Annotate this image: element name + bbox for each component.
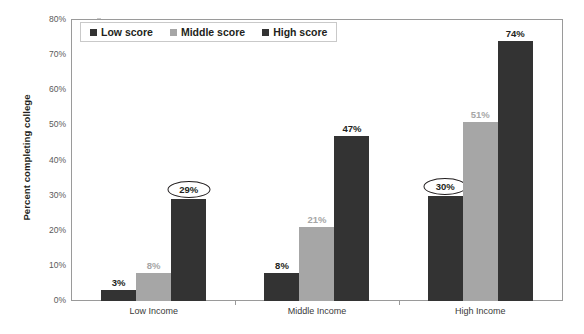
bar: 51% [463,122,498,301]
legend-item[interactable]: Middle score [170,26,245,38]
y-axis-tick-label: 30% [49,190,66,200]
bar: 21% [299,227,334,301]
x-axis-tickmark [399,301,400,305]
y-axis-tick-label: 20% [49,225,66,235]
bar-chart: Percent completing college 80%70%60%50%4… [0,0,584,334]
bar: 8% [264,273,299,301]
legend-item[interactable]: High score [262,26,327,38]
bar-group: 3%8%29% [72,20,235,301]
legend-item[interactable]: Low score [90,26,153,38]
x-axis-category-label: Low Income [129,306,178,316]
bars-layer: 3%8%29%8%21%47%30%51%74% [72,20,562,301]
y-axis-tick-label: 60% [49,84,66,94]
bar-group: 8%21%47% [235,20,398,301]
bar: 8% [136,273,171,301]
bar-value-label: 8% [147,260,161,271]
legend-swatch-icon [170,29,177,36]
bar-value-label: 8% [275,260,289,271]
chart-legend: Low scoreMiddle scoreHigh score [80,22,337,42]
y-axis-tick-label: 0% [54,295,66,305]
legend-label: Low score [101,26,153,38]
legend-swatch-icon [90,29,97,36]
bar-value-label: 47% [342,123,361,134]
legend-swatch-icon [262,29,269,36]
bar: 47% [334,136,369,301]
x-axis-category-label: High Income [455,306,506,316]
bar: 30% [428,196,463,301]
bar-group: 30%51%74% [399,20,562,301]
bar-value-label: 3% [112,277,126,288]
y-axis-tick-label: 70% [49,49,66,59]
legend-label: High score [273,26,327,38]
y-axis-ticks: 80%70%60%50%40%30%20%10%0% [30,19,66,301]
bar: 74% [498,41,533,301]
bar-value-label: 74% [506,28,525,39]
y-axis-tick-label: 50% [49,119,66,129]
bar-value-label-highlighted: 30% [424,178,467,195]
x-axis-labels: Low IncomeMiddle IncomeHigh Income [72,306,562,326]
x-axis-tickmark [235,301,236,305]
y-axis-tick-label: 10% [49,260,66,270]
bar-value-label: 51% [471,109,490,120]
bar-value-label-highlighted: 29% [167,181,210,198]
x-axis-category-label: Middle Income [288,306,347,316]
bar: 29% [171,199,206,301]
bar: 3% [101,290,136,301]
y-axis-tick-label: 40% [49,155,66,165]
y-axis-tick-label: 80% [49,14,66,24]
legend-label: Middle score [181,26,245,38]
bar-value-label: 21% [307,214,326,225]
